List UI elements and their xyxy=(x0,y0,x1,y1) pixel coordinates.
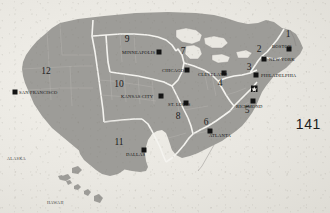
city-label-cleveland: CLEVELAND xyxy=(198,72,228,77)
district-number-2: 2 xyxy=(257,44,262,54)
city-marker-kansas-city xyxy=(159,94,164,99)
city-label-philadelphia: PHILADELPHIA xyxy=(261,73,297,78)
washington-dc-marker xyxy=(251,86,258,93)
city-marker-chicago xyxy=(185,68,190,73)
district-number-4: 4 xyxy=(218,78,223,88)
city-label-chicago: CHICAGO xyxy=(162,68,185,73)
map-landmass xyxy=(22,12,303,172)
district-number-7: 7 xyxy=(181,46,186,56)
page-number: 141 xyxy=(296,116,321,132)
city-label-richmond: RICHMOND xyxy=(236,104,263,109)
city-label-st-louis: ST. LOUIS xyxy=(168,102,191,107)
city-marker-san-francisco xyxy=(13,90,18,95)
city-marker-new-york xyxy=(262,57,267,62)
city-label-san-francisco: SAN FRANCISCO xyxy=(19,90,58,95)
district-number-9: 9 xyxy=(125,34,130,44)
district-number-10: 10 xyxy=(114,79,124,89)
city-label-kansas-city: KANSAS CITY xyxy=(121,94,154,99)
city-label-dallas: DALLAS xyxy=(126,152,145,157)
inset-label-hawaii: HAWAII xyxy=(47,200,64,205)
district-number-3: 3 xyxy=(247,62,252,72)
district-number-1: 1 xyxy=(286,29,291,39)
city-label-new-york: NEW YORK xyxy=(269,57,295,62)
inset-label-layer: ALASKA HAWAII xyxy=(7,156,64,205)
federal-reserve-districts-map: 1 2 3 4 5 6 7 8 9 10 11 12 xyxy=(0,0,330,213)
city-label-atlanta: ATLANTA xyxy=(209,133,232,138)
city-marker-richmond xyxy=(251,99,256,104)
city-marker-minneapolis xyxy=(157,50,162,55)
city-label-boston: BOSTON xyxy=(272,44,292,49)
city-label-minneapolis: MINNEAPOLIS xyxy=(122,50,155,55)
district-number-8: 8 xyxy=(176,111,181,121)
district-number-6: 6 xyxy=(204,117,209,127)
inset-label-alaska: ALASKA xyxy=(7,156,26,161)
district-number-11: 11 xyxy=(114,137,123,147)
district-number-12: 12 xyxy=(41,66,51,76)
city-marker-philadelphia xyxy=(254,73,259,78)
scanned-page: 1 2 3 4 5 6 7 8 9 10 11 12 xyxy=(0,0,330,213)
